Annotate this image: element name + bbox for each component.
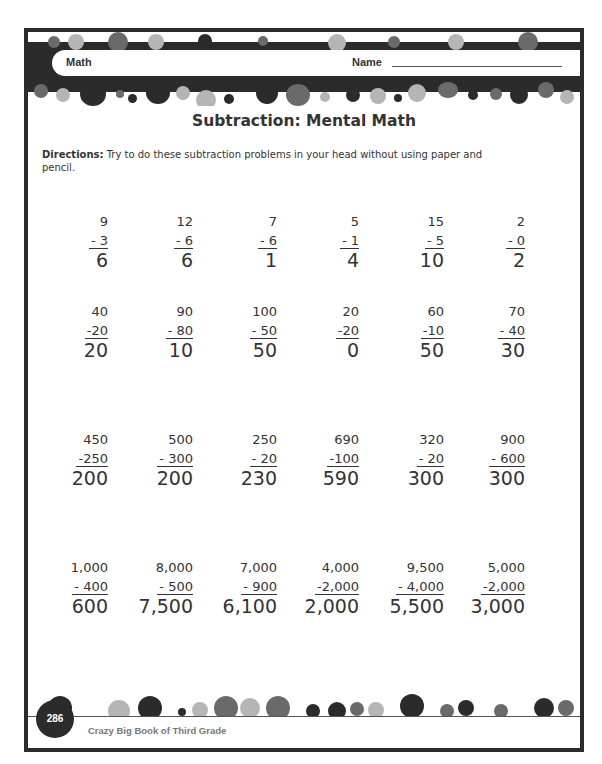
- problem: 8,000- 5007,500: [123, 560, 193, 617]
- decor-dot: [560, 90, 574, 104]
- decor-dot: [400, 694, 424, 718]
- decor-dot: [178, 708, 186, 716]
- problem: 690-100590: [289, 432, 359, 489]
- decor-dot: [370, 88, 386, 104]
- decor-dot: [176, 86, 190, 100]
- decor-dot: [198, 34, 212, 48]
- problem: 90- 8010: [123, 304, 193, 361]
- directions-label: Directions:: [42, 149, 104, 160]
- worksheet-page: Math Name Subtraction: Mental Math Direc…: [24, 28, 584, 752]
- header-dot-band: Math Name: [28, 32, 580, 106]
- decor-dot: [116, 90, 124, 98]
- problem: 5- 14: [289, 214, 359, 271]
- book-title: Crazy Big Book of Third Grade: [88, 725, 226, 736]
- decor-dot: [458, 700, 474, 716]
- page-number-badge: 286: [36, 700, 74, 738]
- decor-dot: [468, 90, 478, 100]
- problem: 1,000- 400600: [38, 560, 108, 617]
- decor-dot: [224, 94, 234, 104]
- problem: 450-250200: [38, 432, 108, 489]
- problem: 2- 02: [455, 214, 525, 271]
- decor-dot: [558, 700, 574, 716]
- problem: 5,000-2,0003,000: [455, 560, 525, 617]
- decor-dot: [80, 82, 106, 106]
- decor-dot: [346, 88, 360, 102]
- decor-dot: [258, 36, 268, 46]
- decor-dot: [108, 32, 128, 52]
- decor-dot: [286, 84, 310, 106]
- directions-text: Try to do these subtraction problems in …: [42, 149, 482, 173]
- decor-dot: [240, 698, 260, 718]
- decor-dot: [128, 94, 137, 103]
- problem: 500- 300200: [123, 432, 193, 489]
- problem: 7,000- 9006,100: [207, 560, 277, 617]
- problem: 900- 600300: [455, 432, 525, 489]
- decor-dot: [350, 702, 364, 716]
- decor-dot: [534, 698, 554, 718]
- decor-dot: [518, 32, 538, 52]
- problem: 12- 66: [123, 214, 193, 271]
- problem: 20-200: [289, 304, 359, 361]
- problem: 7- 61: [207, 214, 277, 271]
- footer-dot-band: 286 Crazy Big Book of Third Grade: [28, 688, 580, 748]
- problem: 9,500- 4,0005,500: [374, 560, 444, 617]
- name-label: Name: [352, 56, 382, 68]
- decor-dot: [388, 36, 400, 48]
- problem: 9- 36: [38, 214, 108, 271]
- problem: 4,000-2,0002,000: [289, 560, 359, 617]
- decor-dot: [196, 90, 216, 106]
- decor-dot: [448, 34, 464, 50]
- name-field[interactable]: [392, 66, 562, 67]
- problem: 60-1050: [374, 304, 444, 361]
- problem: 15- 510: [374, 214, 444, 271]
- decor-dot: [490, 88, 502, 100]
- directions: Directions: Try to do these subtraction …: [42, 148, 512, 174]
- decor-dot: [56, 88, 70, 102]
- decor-dot: [394, 94, 402, 102]
- problem: 320- 20300: [374, 432, 444, 489]
- decor-dot: [146, 82, 170, 104]
- decor-dot: [34, 84, 48, 98]
- decor-dot: [148, 34, 164, 50]
- problem: 40-2020: [38, 304, 108, 361]
- decor-dot: [256, 82, 278, 104]
- decor-dot: [48, 36, 60, 48]
- problem: 100- 5050: [207, 304, 277, 361]
- problem: 250- 20230: [207, 432, 277, 489]
- decor-dot: [68, 34, 84, 50]
- subject-label: Math: [66, 56, 92, 68]
- problem: 70- 4030: [455, 304, 525, 361]
- header-bar: Math Name: [52, 50, 580, 76]
- decor-dot: [408, 84, 426, 102]
- decor-dot: [320, 92, 330, 102]
- decor-dot: [438, 82, 458, 98]
- decor-dot: [510, 86, 528, 104]
- page-title: Subtraction: Mental Math: [28, 112, 580, 130]
- decor-dot: [538, 82, 554, 98]
